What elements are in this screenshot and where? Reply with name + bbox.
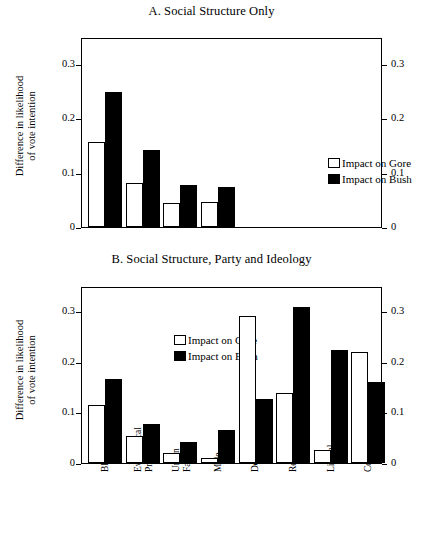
y-tick-right-0.1: 0.1 bbox=[391, 167, 404, 178]
bar-gore-5 bbox=[276, 393, 293, 463]
y-tick-left-0.2: 0.2 bbox=[47, 112, 75, 123]
bar-gore-3 bbox=[201, 458, 218, 463]
legend-swatch-bush-icon bbox=[174, 351, 186, 361]
y-tickmark-right bbox=[382, 464, 387, 465]
y-tickmark-left bbox=[76, 413, 81, 414]
y-tick-right-0.1: 0.1 bbox=[391, 406, 404, 417]
panel-a-title: A. Social Structure Only bbox=[0, 4, 423, 19]
bar-bush-5 bbox=[293, 307, 310, 463]
y-tick-left-0.3: 0.3 bbox=[47, 58, 75, 69]
bar-gore-0 bbox=[88, 142, 105, 227]
bar-bush-0 bbox=[105, 379, 122, 463]
bar-gore-1 bbox=[126, 436, 143, 463]
y-tickmark-left bbox=[76, 312, 81, 313]
bar-gore-4 bbox=[239, 316, 256, 463]
panel-a-plot-area: Impact on Gore Impact on Bush bbox=[81, 38, 382, 228]
legend-swatch-bush-icon bbox=[328, 174, 340, 184]
panel-a-y-axis-label: Difference in likelihood of vote intenti… bbox=[14, 36, 38, 216]
panel-b-title: B. Social Structure, Party and Ideology bbox=[0, 252, 423, 267]
y-tick-left-0.1: 0.1 bbox=[47, 167, 75, 178]
y-tick-right-0.2: 0.2 bbox=[391, 356, 404, 367]
y-tickmark-left bbox=[76, 363, 81, 364]
bar-bush-6 bbox=[331, 350, 348, 463]
y-tickmark-left bbox=[76, 174, 81, 175]
legend-swatch-gore-icon bbox=[174, 335, 186, 345]
y-axis-label-line2: of vote intention bbox=[26, 36, 38, 216]
y-tick-right-0: 0 bbox=[391, 457, 396, 468]
y-tick-left-0.2: 0.2 bbox=[47, 356, 75, 367]
panel-b-plot-area: Impact on Gore Impact on Bush bbox=[81, 287, 382, 464]
panel-a: A. Social Structure Only Difference in l… bbox=[0, 0, 423, 250]
y-tick-left-0.3: 0.3 bbox=[47, 305, 75, 316]
bar-gore-7 bbox=[351, 352, 368, 463]
bar-gore-3 bbox=[201, 202, 218, 227]
y-tickmark-right bbox=[382, 119, 387, 120]
bar-gore-0 bbox=[88, 405, 105, 463]
y-tick-right-0: 0 bbox=[391, 221, 396, 232]
y-tickmark-left bbox=[76, 119, 81, 120]
bar-bush-2 bbox=[180, 185, 197, 227]
y-axis-label-line2: of vote intention bbox=[26, 280, 38, 460]
panel-a-bars bbox=[82, 39, 381, 227]
bar-bush-1 bbox=[143, 150, 160, 227]
bar-bush-0 bbox=[105, 92, 122, 227]
y-tick-left-0: 0 bbox=[47, 221, 75, 232]
bar-bush-1 bbox=[143, 424, 160, 463]
y-axis-label-line1: Difference in likelihood bbox=[14, 280, 26, 460]
y-tick-right-0.3: 0.3 bbox=[391, 58, 404, 69]
y-axis-label-line1: Difference in likelihood bbox=[14, 36, 26, 216]
y-tickmark-right bbox=[382, 228, 387, 229]
y-tickmark-right bbox=[382, 65, 387, 66]
figure-root: A. Social Structure Only Difference in l… bbox=[0, 0, 423, 556]
bar-gore-2 bbox=[163, 203, 180, 227]
y-tick-right-0.2: 0.2 bbox=[391, 112, 404, 123]
y-tickmark-left bbox=[76, 464, 81, 465]
bar-gore-1 bbox=[126, 183, 143, 228]
y-tickmark-right bbox=[382, 363, 387, 364]
bar-bush-4 bbox=[256, 399, 273, 463]
y-tick-left-0: 0 bbox=[47, 457, 75, 468]
y-tickmark-left bbox=[76, 228, 81, 229]
y-tick-left-0.1: 0.1 bbox=[47, 406, 75, 417]
panel-b: B. Social Structure, Party and Ideology … bbox=[0, 250, 423, 556]
bar-bush-2 bbox=[180, 442, 197, 463]
panel-b-bars bbox=[82, 288, 381, 463]
legend-swatch-gore-icon bbox=[328, 158, 340, 168]
bar-bush-3 bbox=[218, 187, 235, 227]
panel-b-y-axis-label: Difference in likelihood of vote intenti… bbox=[14, 280, 38, 460]
y-tick-right-0.3: 0.3 bbox=[391, 305, 404, 316]
bar-bush-7 bbox=[368, 382, 385, 463]
y-tickmark-right bbox=[382, 312, 387, 313]
y-tickmark-right bbox=[382, 174, 387, 175]
y-tickmark-left bbox=[76, 65, 81, 66]
bar-gore-6 bbox=[314, 450, 331, 463]
bar-gore-2 bbox=[163, 453, 180, 463]
bar-bush-3 bbox=[218, 430, 235, 463]
